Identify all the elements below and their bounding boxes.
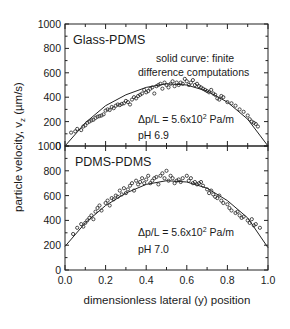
data-point xyxy=(76,127,79,130)
panel-glass-pdms: 02004006008001000 Glass-PDMS solid curve… xyxy=(38,18,268,152)
x-tick-label: 0.2 xyxy=(98,274,113,286)
panel-label: PDMS-PDMS xyxy=(75,155,151,169)
data-point xyxy=(165,169,168,172)
data-point xyxy=(185,80,188,83)
data-point xyxy=(226,203,229,206)
data-point xyxy=(173,85,176,88)
y-tick-label: 1000 xyxy=(38,18,62,30)
data-point xyxy=(185,174,188,177)
x-axis-title: dimensionless lateral (y) position xyxy=(84,294,251,306)
data-point xyxy=(92,218,95,221)
data-point xyxy=(222,201,225,204)
x-tick-label: 0.4 xyxy=(139,274,154,286)
data-point xyxy=(171,80,174,83)
y-axis-title: particle velocity, vz (µm/s) xyxy=(12,82,27,212)
annotation-line1: solid curve: finite xyxy=(156,52,234,64)
x-tick-labels: 0.00.20.40.60.81.0 xyxy=(58,274,276,286)
data-point xyxy=(98,204,101,207)
data-point xyxy=(108,204,111,207)
data-point xyxy=(147,174,150,177)
ph-label: pH 6.9 xyxy=(138,129,169,141)
pressure-gradient: Δp/L = 5.6x102 Pa/m xyxy=(138,226,234,238)
y-tick-label: 200 xyxy=(43,116,61,128)
data-point xyxy=(191,79,194,82)
ph-label: pH 7.0 xyxy=(138,243,169,255)
data-point xyxy=(70,131,73,134)
data-point xyxy=(126,188,129,191)
data-point xyxy=(145,178,148,181)
data-point xyxy=(171,177,174,180)
data-point xyxy=(163,177,166,180)
data-point xyxy=(181,177,184,180)
y-tick-label: 800 xyxy=(43,42,61,54)
data-point xyxy=(189,177,192,180)
data-point xyxy=(108,108,111,111)
data-point xyxy=(143,182,146,185)
data-point xyxy=(139,180,142,183)
data-point xyxy=(122,187,125,190)
data-point xyxy=(153,92,156,95)
data-point xyxy=(161,172,164,175)
data-point xyxy=(90,214,93,217)
data-point xyxy=(106,199,109,202)
data-point xyxy=(234,104,237,107)
data-point xyxy=(167,86,170,89)
y-tick-label: 1000 xyxy=(38,140,62,152)
data-point xyxy=(94,210,97,213)
y-tick-label: 800 xyxy=(43,165,61,177)
x-tick-label: 1.0 xyxy=(261,274,276,286)
data-point xyxy=(118,189,121,192)
y-tick-label: 400 xyxy=(43,214,61,226)
x-tick-label: 0.0 xyxy=(58,274,73,286)
pressure-gradient: Δp/L = 5.6x102 Pa/m xyxy=(138,113,234,125)
data-point xyxy=(72,232,75,235)
data-point xyxy=(230,209,233,212)
y-tick-label: 600 xyxy=(43,190,61,202)
y-tick-label: 600 xyxy=(43,67,61,79)
data-point xyxy=(141,177,144,180)
x-tick-label: 0.6 xyxy=(179,274,194,286)
data-point xyxy=(76,226,79,229)
data-point xyxy=(161,87,164,90)
y-tick-label: 200 xyxy=(43,239,61,251)
y-tick-label: 400 xyxy=(43,91,61,103)
data-point xyxy=(130,182,133,185)
data-point xyxy=(128,103,131,106)
data-point xyxy=(238,108,241,111)
data-point xyxy=(210,88,213,91)
data-point xyxy=(242,110,245,113)
x-tick-label: 0.8 xyxy=(220,274,235,286)
panel-pdms-pdms: 02004006008001000 PDMS-PDMS Δp/L = 5.6x1… xyxy=(38,140,268,276)
data-point xyxy=(246,114,249,117)
chart-canvas: 02004006008001000 Glass-PDMS solid curve… xyxy=(0,0,290,329)
data-point xyxy=(230,102,233,105)
data-point xyxy=(256,125,259,128)
data-point xyxy=(80,129,83,132)
y-axis-ticks: 02004006008001000 xyxy=(38,140,268,276)
annotation-line2: difference computations xyxy=(138,66,249,78)
data-point xyxy=(135,179,138,182)
data-point xyxy=(157,183,160,186)
data-point xyxy=(250,218,253,221)
data-point xyxy=(258,226,261,229)
panel-label: Glass-PDMS xyxy=(73,33,145,47)
